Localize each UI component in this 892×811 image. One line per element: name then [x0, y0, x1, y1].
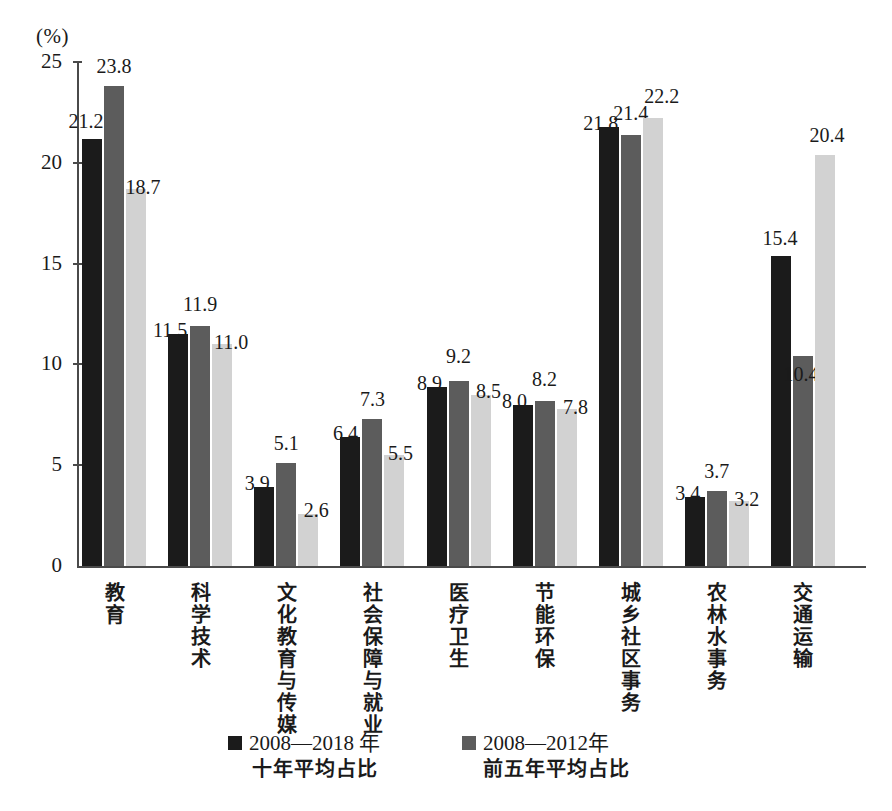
legend-label-line1: 2008—2012年 [483, 730, 630, 757]
x-axis-category-label: 文化教育与传媒 [275, 582, 295, 736]
legend-swatch-icon [462, 736, 476, 750]
bar-group: 15.410.420.4 [0, 0, 892, 566]
legend-label-line1: 2008—2018 年 [249, 730, 380, 757]
x-axis-category-label: 社会保障与就业 [361, 582, 381, 736]
x-axis-category-label: 城乡社区事务 [620, 582, 640, 714]
x-axis-category-label: 教育 [103, 582, 123, 626]
legend-swatch-icon [228, 736, 242, 750]
bar [793, 356, 813, 566]
bar [815, 155, 835, 566]
legend-item[interactable]: 2008—2018 年十年平均占比 [228, 730, 380, 782]
x-axis-category-label: 科学技术 [189, 582, 209, 670]
x-axis-category-label: 交通运输 [792, 582, 812, 670]
legend-label-line2: 十年平均占比 [249, 757, 380, 783]
plot-area: 21.223.818.711.511.911.03.95.12.66.47.35… [0, 0, 892, 566]
bar-value-label: 15.4 [751, 228, 809, 248]
bar [771, 256, 791, 566]
x-axis-line [77, 566, 866, 568]
legend-label: 2008—2018 年十年平均占比 [249, 730, 380, 782]
chart-page: (%) 0510152025 21.223.818.711.511.911.03… [0, 0, 892, 811]
legend-label: 2008—2012年前五年平均占比 [483, 730, 630, 782]
x-axis-category-label: 节能环保 [534, 582, 554, 670]
bar-value-label: 20.4 [798, 125, 856, 145]
legend-label-line2: 前五年平均占比 [483, 757, 630, 783]
x-axis-category-label: 农林水事务 [706, 582, 726, 692]
legend-item[interactable]: 2008—2012年前五年平均占比 [462, 730, 630, 782]
x-axis-category-label: 医疗卫生 [448, 582, 468, 670]
